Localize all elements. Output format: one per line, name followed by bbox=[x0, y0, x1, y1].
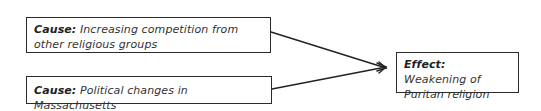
cause-label: Cause: bbox=[34, 84, 76, 97]
cause-box-2: Cause: Political changes in Massachusett… bbox=[26, 76, 272, 104]
cause-box-1: Cause: Increasing competition from other… bbox=[26, 17, 271, 53]
effect-text: Weakening of Puritan religion bbox=[404, 73, 489, 101]
cause-label: Cause: bbox=[34, 23, 76, 36]
effect-label: Effect: bbox=[404, 58, 445, 71]
arrow-cause2-to-effect bbox=[272, 67, 386, 89]
arrow-cause1-to-effect bbox=[271, 32, 386, 68]
effect-box: Effect: Weakening of Puritan religion bbox=[396, 52, 519, 93]
